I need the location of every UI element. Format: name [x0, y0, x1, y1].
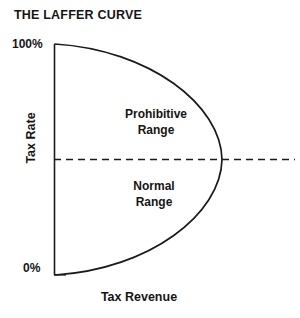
annotation-prohibitive-range-line2: Range: [96, 122, 216, 138]
annotation-prohibitive-range-line1: Prohibitive: [96, 106, 216, 122]
annotation-normal-range-line1: Normal: [94, 178, 214, 194]
y-axis-tick-bottom: 0%: [23, 261, 40, 275]
y-axis-tick-top: 100%: [12, 37, 43, 51]
chart-plot-area: [0, 0, 300, 318]
annotation-normal-range-line2: Range: [94, 194, 214, 210]
annotation-normal-range: Normal Range: [94, 178, 214, 210]
annotation-prohibitive-range: Prohibitive Range: [96, 106, 216, 138]
x-axis-title: Tax Revenue: [0, 290, 278, 304]
laffer-curve-figure: THE LAFFER CURVE 100% 0% Tax Rate Tax Re…: [0, 0, 300, 318]
y-axis-title: Tax Rate: [24, 98, 38, 178]
